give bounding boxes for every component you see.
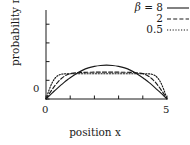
- legend: β = 8 2 0.5: [112, 2, 190, 35]
- legend-key-dotted: [166, 25, 190, 35]
- beta-symbol: β =: [135, 1, 153, 13]
- legend-entry-2: 0.5: [112, 24, 190, 35]
- legend-key-solid: [166, 3, 190, 13]
- legend-entry-0: β = 8: [112, 2, 190, 13]
- x-axis-ticks: [46, 96, 167, 100]
- chart-figure: probability π(x) 0 0 5 position x β = 8 …: [0, 0, 190, 145]
- legend-entry-2-label: 0.5: [146, 24, 166, 35]
- y-axis-ticks: [46, 24, 50, 99]
- data-curves: [46, 65, 167, 99]
- curve-beta-2: [46, 72, 167, 99]
- curve-beta-0.5: [46, 74, 167, 99]
- legend-key-dashed: [166, 14, 190, 24]
- curve-beta-8: [46, 65, 167, 99]
